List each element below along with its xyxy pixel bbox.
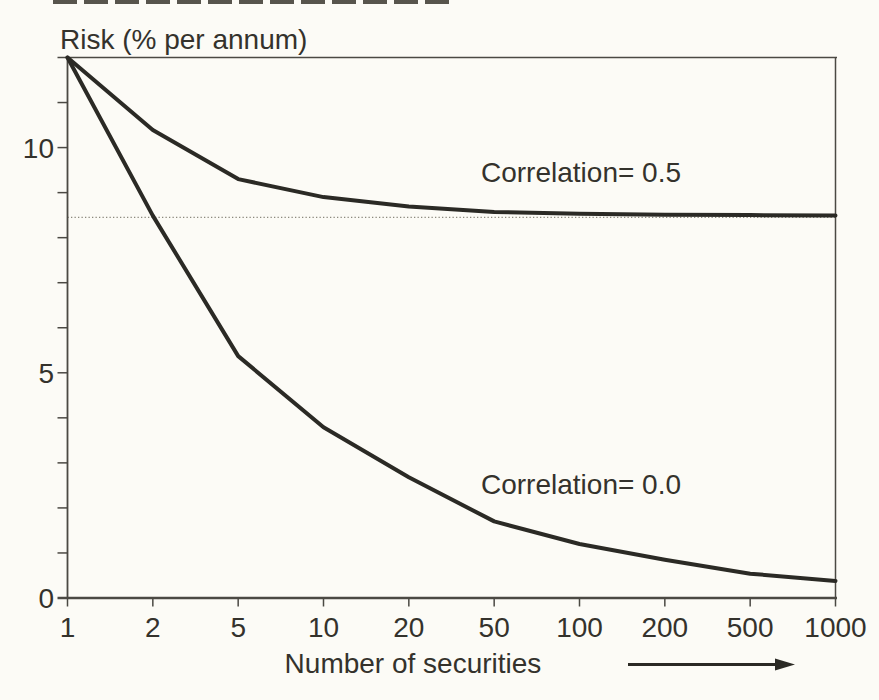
y-tick-label-0: 0 [38,583,54,614]
x-tick-label-100: 100 [556,612,603,643]
x-tick-label-1000: 1000 [804,612,866,643]
scanned-chart-page: Risk (% per annum) 051012510205010020050… [0,0,879,700]
x-tick-label-50: 50 [479,612,510,643]
x-tick-label-10: 10 [308,612,339,643]
x-tick-label-500: 500 [727,612,774,643]
curve-correlation-0-0 [68,58,836,581]
y-tick-label-5: 5 [38,358,54,389]
series-label-correlation-0-0: Correlation= 0.0 [481,470,681,499]
y-tick-label-10: 10 [23,133,54,164]
x-tick-label-1: 1 [60,612,76,643]
x-tick-label-20: 20 [393,612,424,643]
series-label-correlation-0-5: Correlation= 0.5 [481,158,681,187]
curve-correlation-0-5 [68,58,836,216]
x-tick-label-200: 200 [641,612,688,643]
chart-plot-area: 05101251020501002005001000 [0,0,879,700]
x-tick-label-2: 2 [145,612,161,643]
x-axis-arrow-head-icon [775,659,795,671]
x-axis-title: Number of securities [240,649,586,678]
x-tick-label-5: 5 [230,612,246,643]
